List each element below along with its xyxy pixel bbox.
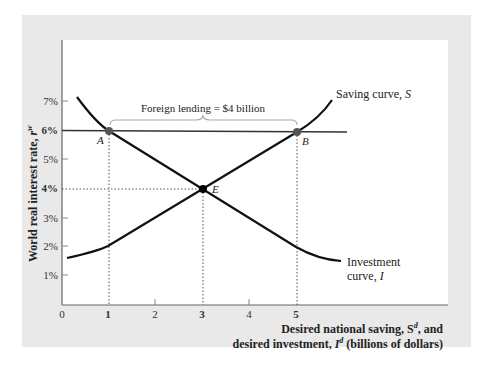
svg-text:5%: 5%: [43, 153, 58, 165]
svg-text:7%: 7%: [43, 95, 58, 107]
y-tick-labels: 7% 6% 5% 4% 3% 2% 1%: [42, 95, 59, 281]
saving-curve-label: Saving curve, S: [336, 87, 411, 101]
svg-text:1: 1: [105, 308, 111, 320]
point-b-label: B: [302, 135, 309, 147]
svg-text:4: 4: [246, 308, 252, 320]
svg-text:1%: 1%: [43, 269, 58, 281]
point-a-label: A: [96, 134, 104, 146]
svg-text:6%: 6%: [42, 124, 59, 136]
point-a-marker: [105, 127, 113, 135]
svg-text:0: 0: [59, 308, 65, 320]
point-e-marker: [199, 185, 207, 193]
x-tick-labels: 0 1 2 3 4 5: [59, 308, 299, 320]
svg-text:5: 5: [293, 308, 299, 320]
svg-text:3%: 3%: [43, 212, 58, 224]
investment-curve-label-1: Investment: [347, 255, 401, 269]
foreign-lending-label: Foreign lending = $4 billion: [141, 102, 266, 114]
svg-text:2%: 2%: [43, 240, 58, 252]
svg-text:2: 2: [152, 308, 158, 320]
svg-text:3: 3: [199, 308, 205, 320]
x-axis-label-line2: desired investment, Id (billions of doll…: [233, 336, 443, 351]
point-b-marker: [293, 128, 301, 136]
y-axis-label: World real interest rate, rw: [25, 125, 40, 262]
x-axis-label-line1: Desired national saving, Sd, and: [281, 321, 443, 336]
investment-curve-label-2: curve, I: [347, 269, 385, 283]
svg-text:4%: 4%: [42, 182, 59, 194]
point-e-label: E: [211, 183, 219, 195]
chart-svg: 7% 6% 5% 4% 3% 2% 1% 0 1 2 3 4 5 Foreign…: [0, 0, 491, 367]
